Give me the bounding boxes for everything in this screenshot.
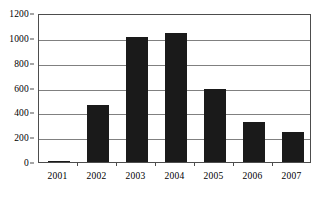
x-tick-label: 2006: [243, 171, 263, 182]
y-tick-mark: [30, 113, 34, 114]
x-tick-label: 2002: [87, 171, 107, 182]
y-tick-label: 0: [24, 158, 29, 168]
x-tick-label: 2007: [282, 171, 302, 182]
y-tick-label: 600: [14, 84, 29, 94]
y-axis: 020040060080010001200: [0, 14, 34, 163]
y-tick-label: 1000: [9, 34, 29, 44]
bar: [282, 132, 304, 162]
y-tick-mark: [30, 38, 34, 39]
x-tick-mark: [272, 162, 273, 166]
x-tick-label: 2003: [126, 171, 146, 182]
x-tick-mark: [155, 162, 156, 166]
plot-area: [38, 14, 311, 163]
y-tick-label: 200: [14, 133, 29, 143]
x-axis: 2001200220032004200520062007: [38, 166, 311, 186]
bar: [87, 105, 109, 162]
y-tick-label: 800: [14, 59, 29, 69]
x-tick-mark: [77, 162, 78, 166]
y-tick-mark: [30, 63, 34, 64]
x-tick-label: 2001: [48, 171, 68, 182]
y-tick-mark: [30, 88, 34, 89]
bar: [243, 122, 265, 162]
bar-chart: 020040060080010001200 200120022003200420…: [0, 0, 324, 198]
x-tick-label: 2005: [204, 171, 224, 182]
bar: [126, 37, 148, 162]
y-tick-mark: [30, 163, 34, 164]
x-tick-mark: [116, 162, 117, 166]
bar: [165, 33, 187, 162]
x-tick-label: 2004: [165, 171, 185, 182]
bar: [48, 161, 70, 163]
x-tick-mark: [194, 162, 195, 166]
y-tick-label: 1200: [9, 9, 29, 19]
y-tick-label: 400: [14, 108, 29, 118]
y-tick-mark: [30, 14, 34, 15]
y-tick-mark: [30, 138, 34, 139]
x-tick-mark: [233, 162, 234, 166]
bar: [204, 89, 226, 162]
